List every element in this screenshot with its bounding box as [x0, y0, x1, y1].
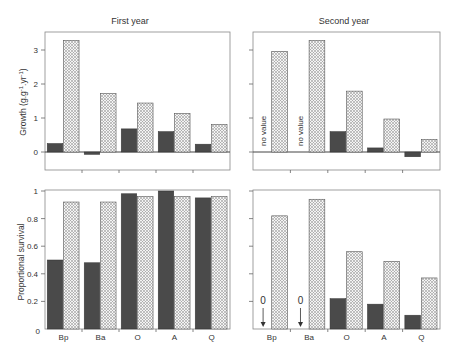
y-tick-label: 0.2 — [27, 297, 39, 306]
bar-hatched-Q — [212, 197, 228, 329]
bar-hatched-A — [175, 197, 191, 329]
chart-panel-bottom-right: 0Bp0BaOAQ — [249, 190, 440, 342]
y-tick-label: 0.8 — [27, 215, 39, 224]
bar-dark-A — [367, 148, 383, 152]
bar-hatched-Q — [421, 139, 437, 152]
bar-dark-Q — [195, 144, 211, 152]
bar-hatched-Ba — [101, 94, 117, 152]
zero-annotation: 0 — [298, 295, 304, 306]
y-tick-label: 0.6 — [27, 242, 39, 251]
bar-hatched-O — [138, 197, 154, 329]
y-tick-label: 3 — [34, 46, 39, 55]
chart-panel-top-left: 0123 — [34, 32, 230, 173]
no-value-annotation: no value — [259, 115, 268, 146]
x-tick-label-Ba: Ba — [304, 333, 314, 342]
x-tick-label-Bp: Bp — [267, 333, 277, 342]
no-value-annotation: no value — [296, 115, 305, 146]
bar-hatched-Q — [421, 278, 437, 329]
x-tick-label-Ba: Ba — [96, 333, 106, 342]
bar-dark-A — [158, 132, 174, 152]
y-tick-label: 2 — [34, 80, 39, 89]
bar-hatched-Bp — [272, 51, 288, 152]
bar-dark-O — [330, 132, 346, 152]
x-tick-label-O: O — [343, 333, 349, 342]
zero-annotation: 0 — [260, 295, 266, 306]
down-arrow-head-icon — [261, 322, 266, 327]
y-tick-label: 1 — [34, 187, 39, 196]
y-tick-label: 0.4 — [27, 270, 39, 279]
x-tick-label-A: A — [172, 333, 178, 342]
bar-hatched-O — [347, 252, 363, 329]
bar-hatched-Ba — [101, 202, 117, 329]
bar-hatched-Ba — [309, 40, 325, 152]
bar-hatched-O — [138, 103, 154, 152]
bar-dark-Bp — [47, 144, 63, 153]
title-second-year: Second year — [319, 16, 370, 26]
bar-dark-O — [121, 129, 137, 152]
bar-dark-Q — [405, 315, 421, 329]
bar-dark-Ba — [84, 263, 100, 329]
bar-dark-Ba — [84, 152, 100, 154]
figure: First year Second year 0123no valueno va… — [0, 0, 457, 357]
y-tick-label: 0 — [34, 148, 39, 157]
bar-hatched-Ba — [309, 199, 325, 329]
bar-hatched-A — [175, 114, 191, 152]
x-tick-label-Q: Q — [208, 333, 214, 342]
title-first-year: First year — [111, 16, 149, 26]
bar-dark-A — [158, 191, 174, 329]
bar-hatched-Bp — [272, 216, 288, 329]
down-arrow-head-icon — [298, 322, 303, 327]
bar-dark-O — [330, 299, 346, 329]
x-tick-label-Q: Q — [418, 333, 424, 342]
bar-dark-A — [367, 304, 383, 329]
bar-hatched-A — [384, 119, 400, 152]
x-tick-label-Bp: Bp — [59, 333, 69, 342]
growth-axis-label: Growth (g.g-1.yr-1) — [18, 68, 28, 136]
bar-hatched-Bp — [64, 202, 80, 329]
bar-hatched-A — [384, 261, 400, 329]
x-tick-label-A: A — [381, 333, 387, 342]
x-tick-label-O: O — [134, 333, 140, 342]
bar-hatched-Q — [212, 124, 228, 152]
chart-panel-top-right: no valueno value — [249, 32, 440, 173]
bar-hatched-O — [347, 91, 363, 152]
bar-hatched-Bp — [64, 40, 80, 152]
chart-panel-bottom-left: 0.20.40.60.810BpBaOAQ — [27, 187, 230, 342]
bar-dark-Q — [405, 152, 421, 157]
bar-dark-O — [121, 194, 137, 329]
bar-dark-Q — [195, 198, 211, 329]
bar-dark-Bp — [47, 260, 63, 329]
y-tick-label: 1 — [34, 114, 39, 123]
survival-axis-label: Proportional survival — [16, 223, 26, 300]
y-tick-label: 0 — [36, 327, 41, 336]
